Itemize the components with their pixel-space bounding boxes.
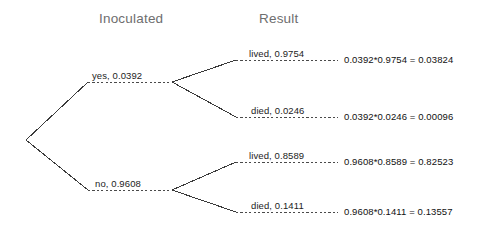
calculation-no-lived: 0.9608*0.8589 = 0.82523: [344, 157, 453, 167]
calculation-yes-lived: 0.0392*0.9754 = 0.03824: [344, 55, 453, 65]
branch-root-to-yes: [26, 82, 88, 140]
branch-no-to-lived: [172, 162, 236, 190]
branch-yes-to-lived: [172, 60, 236, 82]
calculation-no-died: 0.9608*0.1411 = 0.13557: [344, 207, 453, 217]
branch-label-yes: yes, 0.0392: [92, 71, 142, 81]
calculation-yes-died: 0.0392*0.0246 = 0.00096: [344, 112, 453, 122]
branch-root-to-no: [26, 140, 88, 190]
branch-label-yes-lived: lived, 0.9754: [249, 49, 304, 59]
branch-no-to-died: [172, 190, 236, 212]
branch-label-no-lived: lived, 0.8589: [249, 151, 304, 161]
probability-tree-diagram: Inoculated Result yes, 0.0392 no, 0.9608…: [0, 0, 502, 231]
column-header-result: Result: [259, 12, 298, 26]
branch-label-yes-died: died, 0.0246: [251, 106, 305, 116]
branch-label-no: no, 0.9608: [95, 179, 141, 189]
branch-label-no-died: died, 0.1411: [251, 201, 304, 211]
column-header-inoculated: Inoculated: [99, 12, 163, 26]
branch-yes-to-died: [172, 82, 236, 117]
